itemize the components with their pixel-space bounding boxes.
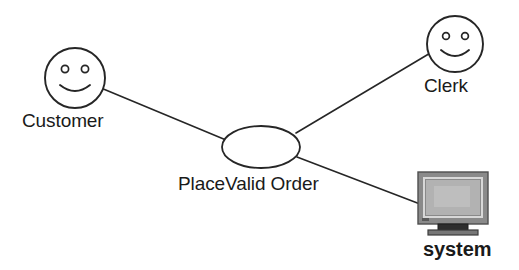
- computer-monitor-icon[interactable]: [418, 172, 488, 235]
- smiley-left-eye-icon: [61, 65, 68, 72]
- association-customer-to-usecase[interactable]: [101, 88, 226, 140]
- use-case-label-place-valid-order: PlaceValid Order: [178, 174, 319, 193]
- monitor-screen-glare: [434, 186, 470, 207]
- use-case-ellipse: [222, 126, 300, 168]
- smiley-face-actor-icon: [45, 48, 105, 108]
- smiley-right-eye-icon: [81, 65, 88, 72]
- monitor-stand-neck: [438, 224, 468, 230]
- use-case-diagram: Customer Clerk PlaceValid Order system: [0, 0, 519, 270]
- actor-clerk[interactable]: [427, 16, 483, 72]
- smiley-face-actor-icon: [427, 16, 483, 72]
- association-clerk-to-usecase[interactable]: [296, 52, 432, 133]
- smiley-right-eye-icon: [462, 33, 469, 40]
- use-case-place-valid-order[interactable]: [222, 126, 300, 168]
- diagram-canvas: [0, 0, 519, 270]
- actor-customer[interactable]: [45, 48, 105, 108]
- monitor-power-indicator-icon: [422, 218, 429, 221]
- monitor-stand-base: [428, 230, 478, 235]
- smiley-left-eye-icon: [443, 33, 450, 40]
- system-label: system: [423, 239, 491, 259]
- actor-label-clerk: Clerk: [424, 76, 468, 95]
- actor-label-customer: Customer: [22, 111, 104, 130]
